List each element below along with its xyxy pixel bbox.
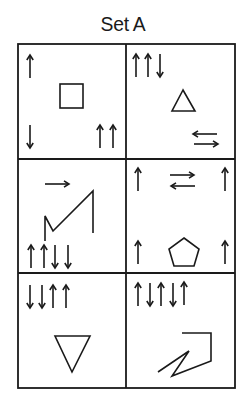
angular-zigzag-shape — [158, 333, 211, 376]
arrow-up-icon — [158, 283, 164, 306]
arrow-down-icon — [27, 125, 33, 148]
triangle-down-shape — [55, 336, 90, 372]
triangle-up-shape — [172, 90, 195, 111]
arrow-up-icon — [222, 241, 228, 264]
square-shape — [60, 84, 83, 108]
arrow-up-icon — [135, 241, 141, 264]
arrow-up-icon — [181, 282, 187, 305]
arrow-right-icon — [45, 181, 69, 187]
arrow-down-icon — [147, 283, 153, 306]
set-a-grid — [0, 0, 246, 410]
arrow-right-icon — [170, 172, 194, 178]
cell-r1c2 — [133, 54, 218, 147]
arrow-up-icon — [135, 283, 141, 306]
arrow-right-icon — [194, 141, 218, 147]
grid-lines — [18, 44, 235, 388]
arrow-up-icon — [145, 54, 151, 77]
arrow-down-icon — [27, 285, 33, 308]
arrow-up-icon — [135, 168, 141, 191]
cell-r3c1 — [27, 285, 90, 372]
arrow-up-icon — [28, 245, 34, 268]
pentagon-shape — [169, 238, 199, 266]
arrow-up-icon — [133, 54, 139, 77]
arrow-down-icon — [39, 285, 45, 308]
zigzag-shape — [45, 191, 93, 241]
arrow-up-icon — [63, 285, 69, 308]
arrow-down-icon — [170, 283, 176, 306]
arrow-up-icon — [50, 285, 56, 308]
arrow-down-icon — [157, 54, 163, 77]
arrow-up-icon — [41, 245, 47, 268]
cell-r2c2 — [135, 168, 228, 266]
arrow-down-icon — [65, 245, 71, 268]
cell-r3c2 — [135, 282, 211, 376]
cell-r2c1 — [28, 181, 93, 268]
arrow-up-icon — [222, 168, 228, 191]
arrow-up-icon — [110, 125, 116, 148]
cell-r1c1 — [27, 55, 116, 148]
arrow-up-icon — [97, 125, 103, 148]
arrow-left-icon — [193, 131, 217, 137]
arrow-up-icon — [27, 55, 33, 78]
arrow-left-icon — [171, 183, 195, 189]
arrow-down-icon — [52, 245, 58, 268]
